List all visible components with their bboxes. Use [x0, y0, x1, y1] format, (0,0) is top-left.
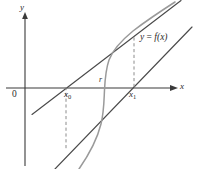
x0-label: x0 [64, 90, 71, 100]
x0-label-subscript: 0 [68, 93, 71, 100]
curve-equation-arg: (x) [157, 32, 168, 42]
root-label: r [99, 76, 102, 84]
y-axis-label: y [20, 3, 24, 12]
tangent-line-at-x1 [55, 27, 192, 169]
function-curve [79, 2, 175, 169]
x1-label-subscript: 1 [133, 93, 136, 100]
origin-label: 0 [12, 90, 17, 100]
y-axis [22, 12, 28, 166]
figure-canvas [0, 0, 198, 169]
x-axis-label: x [180, 82, 184, 91]
curve-equation-equals: = [144, 32, 154, 42]
x1-label: x1 [129, 90, 136, 100]
curve-equation-label: y = f(x) [140, 33, 168, 43]
x-axis [6, 85, 178, 91]
tangent-line-at-x0 [32, 1, 181, 115]
figure-root: y x 0 x0 x1 r y = f(x) [0, 0, 198, 169]
